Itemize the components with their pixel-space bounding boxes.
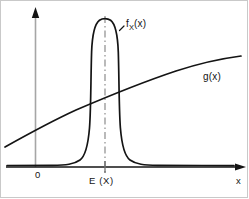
g-curve bbox=[5, 56, 241, 147]
mean-label: E (X) bbox=[89, 176, 114, 186]
g-curve-label: g(x) bbox=[203, 72, 221, 82]
x-axis-label: x bbox=[236, 176, 241, 186]
density-curve-label: fX(x) bbox=[126, 19, 146, 31]
x-axis-arrow-icon bbox=[235, 163, 246, 170]
density-label-leader-line bbox=[120, 26, 125, 31]
origin-label: 0 bbox=[35, 170, 40, 180]
figure-container: fX(x) g(x) 0 E (X) x bbox=[0, 0, 249, 199]
density-curve-label-arg: (x) bbox=[134, 18, 146, 29]
y-axis-arrow-icon bbox=[32, 7, 39, 18]
